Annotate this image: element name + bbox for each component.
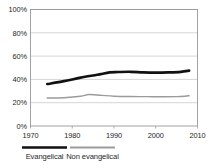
y-axis-tick-label: 20% <box>13 98 28 107</box>
x-axis-tick-label: 2000 <box>148 131 164 140</box>
chart-container: 0%20%40%60%80%100% 19701980199020002010 … <box>0 0 212 168</box>
y-axis-tick-label: 0% <box>17 122 28 131</box>
y-axis-tick-label: 40% <box>13 75 28 84</box>
y-axis-tick-label: 100% <box>8 5 27 14</box>
data-series-group <box>47 71 189 98</box>
y-axis-tick-label: 60% <box>13 52 28 61</box>
x-axis-tick-labels: 19701980199020002010 <box>22 131 205 140</box>
x-axis-tick-label: 1970 <box>22 131 38 140</box>
gridlines <box>31 10 198 103</box>
legend-label-non-evangelical: Non evangelical <box>66 152 119 161</box>
x-axis-tick-label: 1990 <box>106 131 122 140</box>
chart-legend: EvangelicalNon evangelical <box>22 148 119 161</box>
line-chart: 0%20%40%60%80%100% 19701980199020002010 … <box>0 0 212 168</box>
legend-label-evangelical: Evangelical <box>26 152 64 161</box>
series-line-non-evangelical <box>47 95 189 99</box>
plot-area-border <box>31 10 198 127</box>
series-line-evangelical <box>47 71 189 84</box>
y-axis-tick-label: 80% <box>13 29 28 38</box>
x-axis-tick-label: 2010 <box>189 131 205 140</box>
y-axis-tick-labels: 0%20%40%60%80%100% <box>8 5 27 131</box>
x-axis-tick-label: 1980 <box>64 131 80 140</box>
